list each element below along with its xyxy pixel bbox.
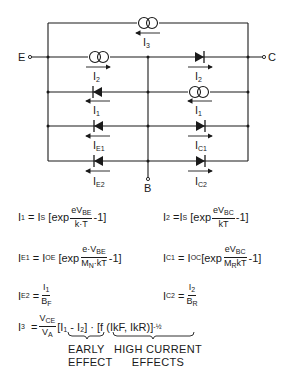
equation-ic2: IC2 = I2BR — [163, 282, 200, 309]
label-b: B — [144, 182, 151, 194]
label-ie1: IE1 — [93, 139, 105, 152]
diode-ie1 — [94, 120, 103, 132]
diode-i2 — [195, 51, 204, 63]
label-i1-right: I1 — [195, 104, 202, 117]
current-source-i2 — [88, 50, 110, 64]
label-c: C — [268, 51, 276, 63]
annotation-early-effect: EARLY EFFECT — [68, 343, 113, 369]
equation-i2: I2 =IS [exp eVBCkT -1] — [163, 205, 249, 229]
annotation-high-current-effects: HIGH CURRENT EFFECTS — [114, 343, 202, 369]
equation-ie1: IE1 = IOE [exp e·VBEMN·kT -1] — [18, 244, 122, 271]
label-e: E — [18, 51, 25, 63]
equation-ie2: IE2 = I1BF — [18, 282, 53, 309]
label-i1-left: I1 — [93, 104, 100, 117]
equation-i1: I1 = IS [exp eVBEk·T -1] — [18, 205, 106, 229]
terminal-e — [28, 55, 31, 58]
label-i3: I3 — [143, 36, 150, 49]
brace-early-icon — [68, 332, 104, 339]
label-i2-right: I2 — [195, 70, 202, 83]
current-source-i3 — [137, 16, 159, 30]
terminal-b — [146, 177, 149, 180]
label-i2-left: I2 — [93, 70, 100, 83]
current-source-i1 — [188, 85, 210, 99]
label-ic1: IC1 — [195, 139, 207, 152]
diode-ie2 — [94, 155, 103, 167]
diode-i1 — [93, 86, 102, 98]
brace-high-current-icon — [113, 332, 194, 339]
terminal-c — [262, 55, 265, 58]
diode-ic1 — [196, 120, 205, 132]
equation-ic1: IC1 = IOC[exp eVBCMRkT -1] — [163, 244, 261, 271]
diode-ic2 — [196, 155, 205, 167]
ebers-moll-circuit: E C B I3 I2 I2 I1 I1 IE1 IC1 IE2 IC2 — [0, 0, 291, 200]
label-ie2: IE2 — [93, 175, 105, 188]
label-ic2: IC2 — [195, 175, 207, 188]
